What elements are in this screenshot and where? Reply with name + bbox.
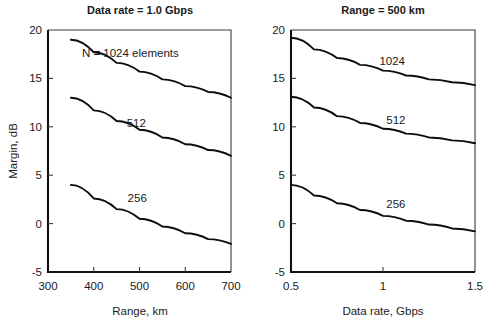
x-axis-title-right: Data rate, Gbps [342, 305, 423, 317]
curve-right-512 [291, 97, 475, 143]
curve-label-left-0: N = 1024 elements [82, 47, 179, 59]
x-tick-label-left-3: 600 [176, 280, 195, 292]
curve-label-right-1: 512 [386, 114, 405, 126]
x-tick-label-right-1: 1 [380, 280, 386, 292]
panel-title-right: Range = 500 km [341, 4, 425, 16]
x-tick-label-right-2: 1.5 [467, 280, 483, 292]
plot-frame-left [48, 30, 231, 272]
panel-right: Range = 500 km-5051015200.511.5Data rate… [272, 4, 483, 317]
two-panel-margin-chart: Data rate = 1.0 Gbps-5051015203004005006… [0, 0, 501, 328]
x-tick-label-left-1: 400 [84, 280, 103, 292]
y-tick-label-left-5: 20 [29, 24, 42, 36]
curve-label-right-2: 256 [386, 198, 405, 210]
y-tick-label-left-4: 15 [29, 72, 42, 84]
y-tick-label-right-2: 5 [279, 169, 285, 181]
curve-label-left-1: 512 [127, 117, 146, 129]
y-tick-label-left-3: 10 [29, 121, 42, 133]
curve-left-256 [71, 185, 231, 244]
y-tick-label-right-0: -5 [275, 266, 285, 278]
y-tick-label-left-2: 5 [36, 169, 42, 181]
y-tick-label-right-5: 20 [272, 24, 285, 36]
panel-left: Data rate = 1.0 Gbps-5051015203004005006… [7, 4, 241, 317]
x-tick-label-left-4: 700 [221, 280, 240, 292]
panel-title-left: Data rate = 1.0 Gbps [87, 4, 193, 16]
x-tick-label-left-0: 300 [38, 280, 57, 292]
y-axis-title-left: Margin, dB [7, 123, 19, 179]
figure-container: Data rate = 1.0 Gbps-5051015203004005006… [0, 0, 501, 328]
y-tick-label-left-0: -5 [32, 266, 42, 278]
x-tick-label-left-2: 500 [130, 280, 149, 292]
curve-label-right-0: 1024 [379, 55, 405, 67]
y-tick-label-left-1: 0 [36, 218, 42, 230]
y-tick-label-right-1: 0 [279, 218, 285, 230]
x-tick-label-right-0: 0.5 [283, 280, 299, 292]
curve-right-256 [291, 185, 475, 231]
axis-lines-left [48, 30, 231, 272]
x-axis-title-left: Range, km [112, 305, 168, 317]
y-tick-label-right-3: 10 [272, 121, 285, 133]
curve-left-512 [71, 98, 231, 156]
curve-label-left-2: 256 [128, 192, 147, 204]
y-tick-label-right-4: 15 [272, 72, 285, 84]
